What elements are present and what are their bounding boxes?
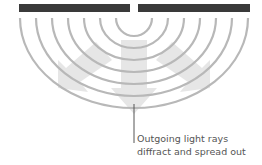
barrier-left — [19, 4, 130, 12]
annotation-line-1: Outgoing light rays — [137, 132, 246, 145]
barrier-right — [138, 4, 250, 12]
center-arrow-icon — [111, 40, 157, 114]
barrier — [19, 4, 250, 12]
annotation-caption: Outgoing light rays diffract and spread … — [137, 132, 246, 158]
annotation-line-2: diffract and spread out — [137, 145, 246, 158]
